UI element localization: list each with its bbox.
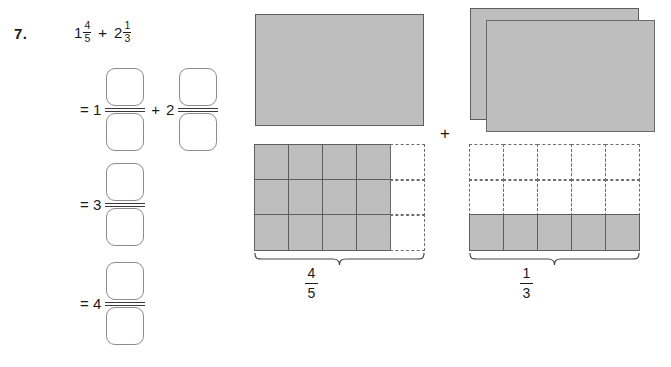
grid-cell-empty <box>390 144 425 180</box>
label-denominator: 5 <box>308 286 316 302</box>
work-row-3: = 4 <box>80 262 145 345</box>
left-model-fraction-grid <box>255 145 424 250</box>
grid-cell-empty <box>469 144 504 180</box>
grid-cell-filled <box>288 214 323 250</box>
answer-box-numerator[interactable] <box>179 68 217 106</box>
answer-box-denominator[interactable] <box>106 208 144 246</box>
grid-cell-filled <box>254 144 289 180</box>
grid-cell-filled <box>571 214 606 250</box>
grid-cell-filled <box>537 214 572 250</box>
answer-box-numerator[interactable] <box>106 68 144 106</box>
label-numerator: 4 <box>308 266 316 282</box>
grid-cell-filled <box>469 214 504 250</box>
work-row-1-operator: + <box>151 101 160 118</box>
answer-fraction-1a <box>105 68 145 151</box>
grid-cell-filled <box>322 179 357 215</box>
worksheet-page: 7. 1 4 5 + 2 1 3 = 1 + 2 <box>0 0 671 367</box>
whole-part-second: 2 <box>114 24 122 41</box>
answer-fraction-2 <box>105 163 145 246</box>
problem-number: 7. <box>14 25 27 42</box>
expression-operator: + <box>98 24 107 41</box>
whole-part-first: 1 <box>74 24 82 41</box>
grid-cell-filled <box>356 214 391 250</box>
fraction-denominator: 3 <box>124 33 132 44</box>
grid-cell-empty <box>503 144 538 180</box>
right-model-fraction-label: 1 3 <box>520 266 533 302</box>
grid-cell-empty <box>571 179 606 215</box>
answer-box-denominator[interactable] <box>179 113 217 151</box>
work-row-1-second-lead: 2 <box>166 101 174 118</box>
answer-box-denominator[interactable] <box>106 307 144 345</box>
left-model-whole-rectangle <box>255 14 424 126</box>
fraction-bar <box>105 302 145 306</box>
fraction-bar <box>178 108 218 112</box>
grid-cell-filled <box>288 144 323 180</box>
work-row-1: = 1 + 2 <box>80 68 218 151</box>
grid-cell-filled <box>322 144 357 180</box>
grid-cell-empty <box>537 179 572 215</box>
grid-cell-empty <box>469 179 504 215</box>
work-row-1-lead: = 1 <box>80 101 101 118</box>
grid-cell-filled <box>254 214 289 250</box>
answer-box-denominator[interactable] <box>106 113 144 151</box>
fraction-bar <box>105 203 145 207</box>
grid-cell-filled <box>254 179 289 215</box>
work-row-3-lead: = 4 <box>80 295 101 312</box>
fraction-first: 4 5 <box>83 20 91 45</box>
grid-cell-empty <box>503 179 538 215</box>
diagram-plus-operator: + <box>440 124 450 144</box>
grid-cell-empty <box>537 144 572 180</box>
right-model-fraction-grid <box>470 145 639 250</box>
answer-box-numerator[interactable] <box>106 262 144 300</box>
fraction-denominator: 5 <box>83 33 91 44</box>
grid-cell-empty <box>605 144 640 180</box>
grid-cell-filled <box>288 179 323 215</box>
answer-fraction-3 <box>105 262 145 345</box>
grid-cell-filled <box>503 214 538 250</box>
answer-box-numerator[interactable] <box>106 163 144 201</box>
label-denominator: 3 <box>523 286 531 302</box>
grid-cell-empty <box>571 144 606 180</box>
mixed-number-second: 2 1 3 <box>114 20 131 45</box>
grid-cell-empty <box>605 179 640 215</box>
label-numerator: 1 <box>523 266 531 282</box>
mixed-number-first: 1 4 5 <box>74 20 91 45</box>
fraction-bar <box>105 108 145 112</box>
grid-cell-empty <box>390 179 425 215</box>
grid-cell-filled <box>356 179 391 215</box>
left-model-fraction-label: 4 5 <box>305 266 318 302</box>
work-row-2-lead: = 3 <box>80 196 101 213</box>
grid-cell-empty <box>390 214 425 250</box>
grid-cell-filled <box>322 214 357 250</box>
left-model-brace <box>253 252 426 266</box>
right-model-whole-rectangle-front <box>486 20 655 132</box>
answer-fraction-1b <box>178 68 218 151</box>
work-row-2: = 3 <box>80 163 145 246</box>
right-model-brace <box>468 252 641 266</box>
problem-expression: 1 4 5 + 2 1 3 <box>74 20 131 45</box>
grid-cell-filled <box>356 144 391 180</box>
fraction-numerator: 4 <box>83 20 91 31</box>
fraction-second: 1 3 <box>123 20 131 45</box>
fraction-numerator: 1 <box>124 20 132 31</box>
grid-cell-filled <box>605 214 640 250</box>
